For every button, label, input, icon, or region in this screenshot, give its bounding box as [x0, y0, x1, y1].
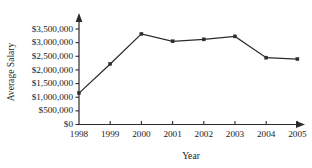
data-point-marker	[265, 56, 268, 59]
data-point-marker	[296, 57, 299, 60]
x-axis-tick-label: 2003	[226, 129, 245, 139]
data-point-marker	[109, 62, 112, 65]
y-axis-tick-label: $1,000,000	[32, 92, 74, 102]
y-axis-tick-label: $0	[64, 119, 74, 129]
y-axis-tick-label: $3,500,000	[32, 24, 74, 34]
x-axis-tick-label: 2001	[163, 129, 182, 139]
y-axis-tick-label: $500,000	[39, 105, 74, 115]
y-axis-tick-label: $2,500,000	[32, 51, 74, 61]
x-axis-title: Year	[182, 150, 200, 161]
data-point-marker	[171, 40, 174, 43]
y-axis-title: Average Salary	[5, 42, 16, 101]
y-axis-tick-label: $3,000,000	[32, 37, 74, 47]
y-axis-tick-label: $2,000,000	[32, 65, 74, 75]
x-axis-tick-label: 2005	[288, 129, 307, 139]
x-axis-tick-label: 2004	[257, 129, 276, 139]
axes-group	[76, 13, 305, 128]
line-chart: $0$500,000$1,000,000$1,500,000$2,000,000…	[0, 0, 312, 168]
x-axis-tick-label: 1999	[101, 129, 120, 139]
y-axis-arrow-icon	[76, 13, 83, 22]
salary-series-markers	[77, 32, 299, 94]
data-point-marker	[140, 32, 143, 35]
data-point-marker	[77, 92, 80, 95]
x-axis-tick-label: 2002	[195, 129, 214, 139]
y-axis-tick-label: $1,500,000	[32, 78, 74, 88]
x-axis-tick-label: 2000	[132, 129, 151, 139]
x-axis-tick-labels: 19981999200020012002200320042005	[70, 129, 307, 139]
chart-canvas: $0$500,000$1,000,000$1,500,000$2,000,000…	[0, 0, 312, 168]
data-point-marker	[233, 35, 236, 38]
data-point-marker	[202, 38, 205, 41]
x-axis-tick-label: 1998	[70, 129, 89, 139]
y-axis-tick-labels: $0$500,000$1,000,000$1,500,000$2,000,000…	[32, 24, 74, 130]
